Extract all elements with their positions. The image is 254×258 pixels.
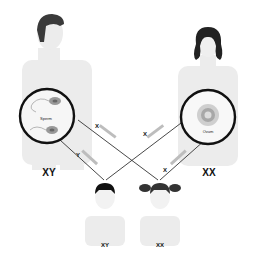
son-figure bbox=[85, 183, 125, 246]
sperm-label: Sperm bbox=[36, 116, 56, 121]
mother-genotype: XX bbox=[194, 167, 224, 178]
son-genotype: XY bbox=[95, 242, 115, 248]
ovum-inset bbox=[181, 90, 235, 144]
father-genotype: XY bbox=[34, 167, 64, 178]
y-chromosome-mark: Y bbox=[76, 152, 80, 158]
daughter-genotype: XX bbox=[150, 242, 170, 248]
x-chromosome-mark-mother: X bbox=[143, 131, 147, 137]
inheritance-diagram: Y X X X bbox=[0, 0, 254, 258]
daughter-figure bbox=[139, 183, 181, 246]
x-chromosome-mark-father: X bbox=[95, 123, 99, 129]
x-chromosome-mark-mother-2: X bbox=[163, 167, 167, 173]
ovum-label: Ovum bbox=[198, 129, 218, 134]
